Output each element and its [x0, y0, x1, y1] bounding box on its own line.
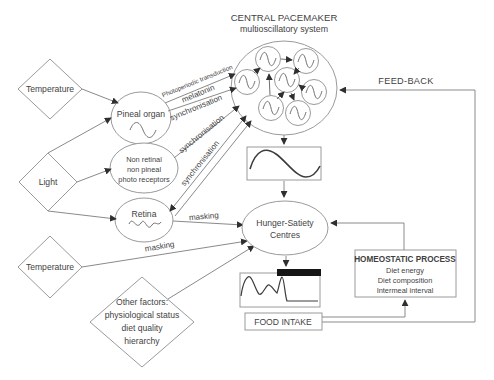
other-factors-line1: Other factors:	[116, 297, 168, 307]
oscillator-icon	[235, 70, 260, 95]
non-retinal-line1: Non retinal	[126, 155, 162, 164]
food-intake-label: FOOD INTAKE	[254, 317, 312, 327]
intake-plot-box	[240, 273, 320, 307]
oscillator-icon	[259, 96, 284, 121]
arrow-light-to-retina	[48, 211, 116, 219]
arrow-homeostatic-to-hunger	[331, 223, 404, 250]
homeostatic-item3: Intermeal interval	[377, 286, 434, 295]
synchronisation-non-retinal-label: synchronisation	[177, 113, 226, 155]
hunger-satiety-line2: Centres	[270, 230, 300, 240]
central-pacemaker-subtitle: multioscillatory system	[240, 24, 328, 34]
homeostatic-title: HOMEOSTATIC PROCESS	[354, 255, 456, 264]
oscillator-icon	[302, 80, 327, 105]
temperature-top-label: Temperature	[26, 84, 74, 94]
homeostatic-item2: Diet composition	[378, 276, 433, 285]
light-label: Light	[39, 177, 58, 187]
oscillator-icon	[286, 101, 311, 126]
masking-retina-label: masking	[189, 211, 219, 223]
arrow-temperature-to-pineal	[82, 89, 118, 103]
feedback-label: FEED-BACK	[378, 76, 434, 86]
oscillator-icon	[256, 47, 281, 72]
arrow-food-intake-to-homeostatic	[322, 300, 405, 317]
diagram-canvas: CENTRAL PACEMAKER multioscillatory syste…	[0, 0, 494, 380]
other-factors-diamond	[90, 277, 194, 367]
arrow-retina-masking	[173, 221, 243, 225]
non-retinal-line2: non pineal	[127, 165, 161, 174]
diagram-stage: CENTRAL PACEMAKER multioscillatory syste…	[0, 0, 494, 380]
retina-label: Retina	[132, 209, 157, 219]
hunger-satiety-line1: Hunger-Satiety	[256, 218, 314, 228]
other-factors-line4: hierarchy	[124, 336, 160, 346]
dark-phase-bar	[277, 269, 321, 276]
other-factors-line2: physiological status	[105, 310, 180, 320]
central-pacemaker-title: CENTRAL PACEMAKER	[231, 12, 338, 23]
non-retinal-line3: photo receptors	[118, 175, 170, 184]
arrow-retina-to-pacemaker	[175, 121, 251, 216]
arrow-light-to-non-retinal	[77, 169, 111, 182]
temperature-bottom-label: Temperature	[26, 262, 74, 272]
pineal-organ-label: Pineal organ	[117, 109, 165, 119]
other-factors-line3: diet quality	[121, 323, 163, 333]
arrow-light-to-pineal	[48, 118, 111, 153]
rhythm-box	[247, 147, 321, 180]
retina-node	[115, 198, 173, 242]
hunger-satiety-node	[242, 201, 328, 255]
homeostatic-item1: Diet energy	[386, 266, 424, 275]
